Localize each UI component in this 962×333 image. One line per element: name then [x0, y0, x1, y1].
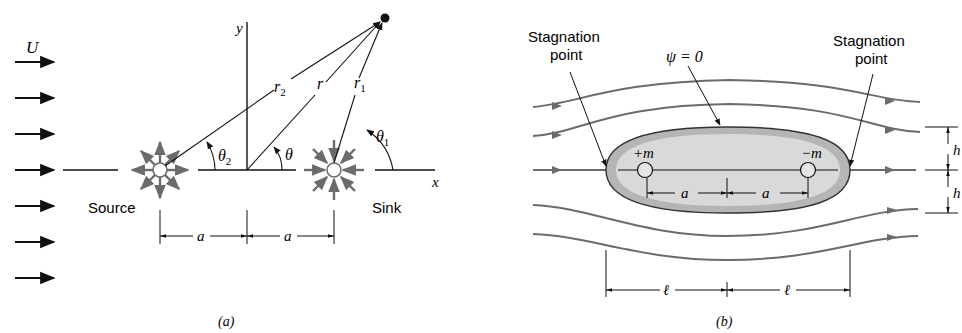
dim-l-right-label: ℓ — [784, 282, 790, 298]
figure-canvas: U x y Source — [0, 0, 962, 333]
dim-a-right-label: a — [284, 228, 292, 244]
sink-circle — [327, 163, 341, 177]
r1-label: r1 — [354, 74, 366, 94]
stagnation-right-label-line2: point — [855, 50, 888, 67]
psi-zero-label: ψ = 0 — [666, 48, 703, 66]
minus-m-label: −m — [801, 145, 822, 161]
stagnation-left-label-line1: Stagnation — [528, 28, 600, 45]
stagnation-right-leader — [850, 74, 873, 166]
r-label: r — [317, 75, 324, 92]
sink-label: Sink — [372, 199, 402, 216]
r2-label: r2 — [274, 78, 286, 98]
source-circle — [153, 163, 167, 177]
psi-zero-leader — [688, 66, 720, 125]
source-label: Source — [88, 199, 136, 216]
y-axis-label: y — [234, 20, 243, 36]
theta-label: θ — [285, 146, 293, 163]
uniform-flow-label: U — [26, 38, 40, 57]
dim-l-left-label: ℓ — [663, 282, 669, 298]
uniform-flow-arrows — [15, 62, 54, 278]
dim-h-top-label: h — [953, 142, 961, 158]
dim-a-right-label-b: a — [762, 185, 770, 201]
field-point — [381, 14, 390, 23]
theta2-label: θ2 — [218, 147, 231, 167]
dim-a-left-label-b: a — [681, 185, 689, 201]
angle-arcs — [207, 130, 393, 170]
stagnation-right-label-line1: Stagnation — [833, 32, 905, 49]
figure-a: U x y Source — [15, 14, 439, 331]
plus-m-label: +m — [633, 145, 654, 161]
dim-a-left-label: a — [197, 228, 205, 244]
caption-a: (a) — [218, 314, 235, 330]
stagnation-left-leader — [570, 72, 606, 166]
dimension-a-a — [160, 210, 334, 244]
caption-b: (b) — [716, 314, 733, 330]
figure-b: +m −m a a Stagnation point Stagnation po… — [528, 28, 961, 330]
radius-lines — [165, 22, 382, 170]
sink-minus-m-circle — [801, 163, 816, 178]
stagnation-left-label-line2: point — [550, 46, 583, 63]
dim-h-bottom-label: h — [953, 185, 961, 201]
source-plus-m-circle — [638, 163, 653, 178]
dimension-l-l — [606, 250, 850, 297]
x-axis-label: x — [431, 174, 439, 190]
